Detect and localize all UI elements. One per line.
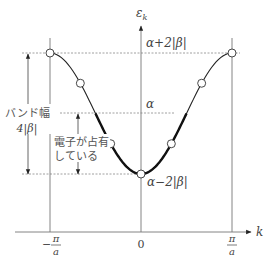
sample-point	[228, 49, 236, 57]
band-width-label: バンド幅	[5, 107, 50, 120]
sample-point	[198, 79, 206, 87]
sample-point	[167, 140, 175, 148]
level-bottom-label: α−2|β|	[147, 175, 188, 189]
occupied-label-line1: 電子が占有	[54, 135, 109, 149]
svg-text:π: π	[228, 233, 236, 244]
k-axis-label: k	[256, 225, 263, 239]
sample-point	[46, 49, 54, 57]
svg-text:−: −	[42, 238, 51, 251]
occupied-label-line2: している	[54, 150, 98, 163]
sample-point	[76, 79, 84, 87]
level-middle-label: α	[146, 97, 154, 111]
svg-text:a: a	[53, 246, 59, 257]
band-width-value: 4|β|	[16, 122, 38, 136]
x-tick-left: − π a	[42, 233, 61, 257]
svg-text:a: a	[229, 246, 235, 257]
x-tick-center: 0	[138, 238, 145, 251]
x-tick-right: π a	[227, 233, 237, 257]
band-diagram: εk k α+2|β| α α−2|β| バンド幅 4|β| 電子が占有 してい…	[0, 0, 270, 264]
energy-axis-label: εk	[136, 6, 147, 22]
svg-text:π: π	[52, 233, 60, 244]
level-top-label: α+2|β|	[146, 36, 187, 50]
sample-point	[137, 170, 145, 178]
